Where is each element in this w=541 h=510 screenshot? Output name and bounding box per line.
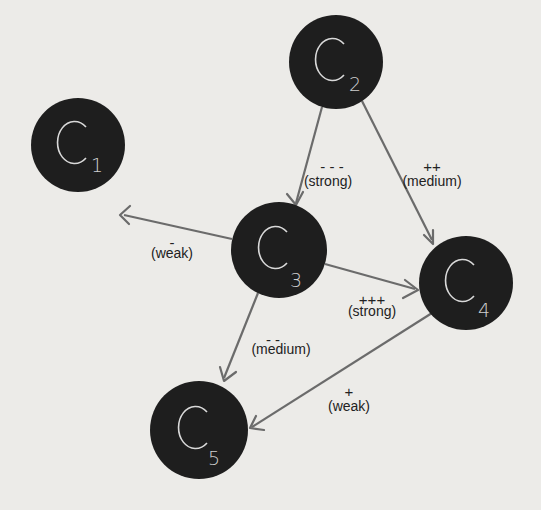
node-subscript: 1 (91, 154, 103, 176)
edge-strength-c2-c4: (medium) (402, 173, 461, 189)
node-subscript: 2 (349, 73, 361, 95)
edge-c3-c1 (120, 206, 232, 239)
concept-graph: - - - (strong) ++ (medium) - (weak) +++ … (0, 0, 541, 510)
edge-c3-c5 (220, 293, 258, 381)
arrowhead-icon (403, 280, 418, 298)
edge-c2-c3 (287, 107, 322, 205)
node-c5[interactable]: 5 (150, 381, 248, 479)
node-subscript: 4 (478, 299, 490, 321)
edge-strength-c3-c5: (medium) (251, 341, 310, 357)
node-subscript: 5 (208, 447, 220, 469)
node-c1[interactable]: 1 (31, 98, 125, 192)
node-c4[interactable]: 4 (419, 236, 513, 330)
edge-strength-c3-c1: (weak) (151, 245, 193, 261)
node-subscript: 3 (290, 269, 302, 291)
edge-strength-c4-c5: (weak) (328, 398, 370, 414)
node-c2[interactable]: 2 (289, 15, 383, 109)
edge-strength-c2-c3: (strong) (304, 173, 352, 189)
edge-strength-c3-c4: (strong) (348, 303, 396, 319)
nodes: 1 2 3 4 5 (31, 15, 513, 479)
node-c3[interactable]: 3 (231, 202, 327, 298)
graph-canvas: - - - (strong) ++ (medium) - (weak) +++ … (0, 0, 541, 510)
arrowhead-icon (287, 192, 303, 205)
